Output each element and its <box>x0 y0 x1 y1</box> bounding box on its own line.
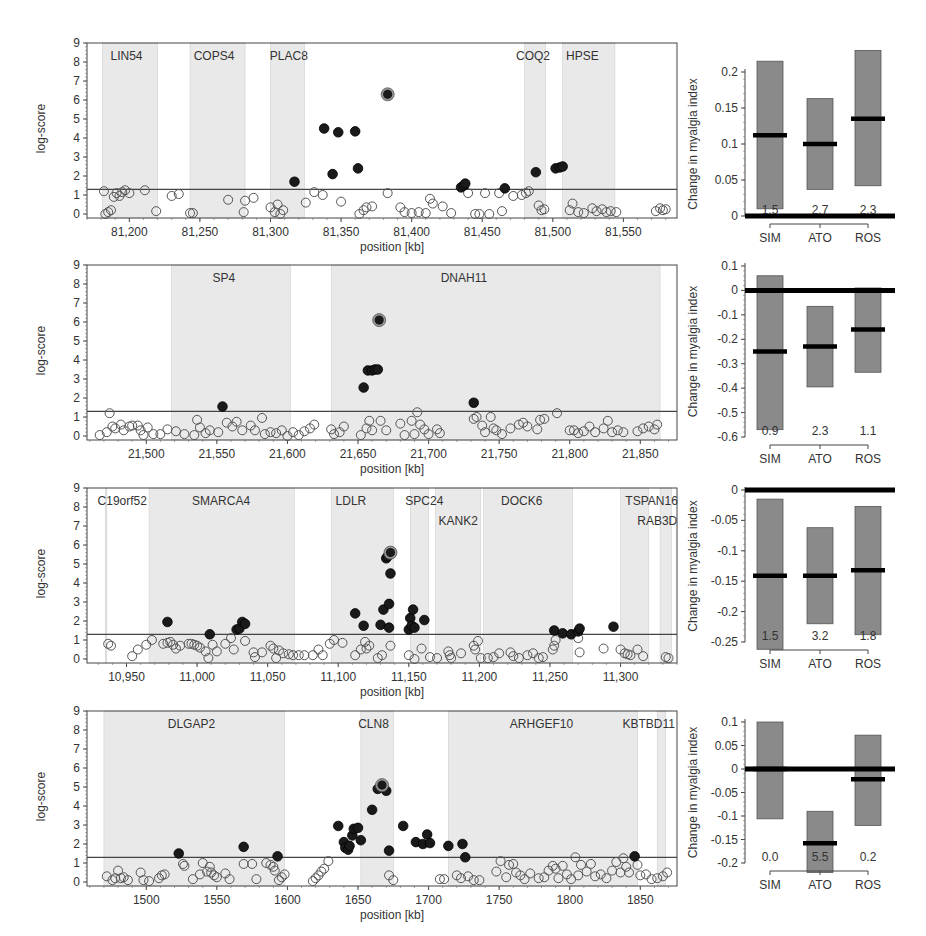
manhattan-plot-3: C19orf52SMARCA4LDLRSPC24KANK2DOCK6TSPAN1… <box>34 481 678 699</box>
significant-snp-point <box>408 605 418 615</box>
x-tick-label: 81,400 <box>393 225 430 239</box>
bar-y-tick-label: 0 <box>731 283 738 297</box>
y-tick-label: 6 <box>73 761 80 775</box>
x-axis-title: position [kb] <box>360 240 424 254</box>
snp-point <box>308 651 317 660</box>
snp-point <box>497 207 506 216</box>
snp-point <box>163 425 172 434</box>
significant-snp-point <box>319 124 329 134</box>
snp-point <box>509 191 518 200</box>
gene-label-arhgef10: ARHGEF10 <box>510 717 574 731</box>
x-tick-label: 11,250 <box>532 670 568 684</box>
x-tick-label: 11,200 <box>461 670 497 684</box>
snp-point <box>324 857 333 866</box>
x-tick-label: 81,500 <box>534 225 571 239</box>
y-tick-label: 9 <box>73 481 80 495</box>
gene-label-rab3d: RAB3D <box>637 514 677 528</box>
significant-snp-point <box>353 164 363 174</box>
significant-snp-point <box>458 839 468 849</box>
bar-y-tick-label: -0.1 <box>717 544 738 558</box>
significant-snp-point <box>384 846 394 856</box>
snp-point <box>641 870 650 879</box>
y-axis-title: log-score <box>34 104 48 154</box>
y-tick-label: 0 <box>73 207 80 221</box>
gene-band-spc24 <box>410 488 428 663</box>
snp-point <box>383 189 392 198</box>
category-label-ros: ROS <box>855 657 881 671</box>
x-tick-label: 81,250 <box>182 225 219 239</box>
gene-band-dlgap2 <box>104 711 285 886</box>
bar-y-tick-label: 0.05 <box>715 739 739 753</box>
snp-point <box>481 189 490 198</box>
significant-snp-point <box>218 402 228 412</box>
significant-snp-point <box>359 621 369 631</box>
bar-y-tick-label: -0.5 <box>717 406 738 420</box>
snp-point <box>438 202 447 211</box>
category-label-sim: SIM <box>759 452 780 466</box>
y-tick-label: 9 <box>73 258 80 272</box>
bar-y-tick-label: -0.15 <box>711 574 739 588</box>
significant-snp-point <box>500 184 510 194</box>
lead-snp-point <box>383 90 392 99</box>
bar-y-tick-label: -0.1 <box>717 308 738 322</box>
significant-snp-point <box>345 841 355 851</box>
significant-snp-point <box>333 128 343 138</box>
gene-band-cln8 <box>361 711 393 886</box>
gene-label-tspan16: TSPAN16 <box>625 494 678 508</box>
y-tick-label: 2 <box>73 837 80 851</box>
y-tick-label: 4 <box>73 799 80 813</box>
gene-label-hpse: HPSE <box>566 49 599 63</box>
bar-y-axis-title: Change in myalgia index <box>686 286 700 417</box>
bar-y-tick-label: 0 <box>731 483 738 497</box>
x-tick-label: 10,950 <box>108 670 145 684</box>
bar-y-tick-label: 0.15 <box>715 101 739 115</box>
significant-snp-point <box>359 383 369 393</box>
gene-band-sp4 <box>172 265 291 440</box>
y-tick-label: 9 <box>73 704 80 718</box>
gene-label-cln8: CLN8 <box>358 717 389 731</box>
category-label-ato: ATO <box>808 878 832 892</box>
gene-label-smarca4: SMARCA4 <box>192 494 250 508</box>
significant-snp-point <box>460 853 470 863</box>
gene-band-ldlr <box>331 488 393 663</box>
significant-snp-point <box>350 127 360 137</box>
significant-snp-point <box>350 609 360 619</box>
snp-point <box>575 648 584 657</box>
gene-label-coq2: COQ2 <box>516 49 550 63</box>
gene-label-spc24: SPC24 <box>405 494 443 508</box>
category-label-sim: SIM <box>759 657 780 671</box>
y-tick-label: 5 <box>73 334 80 348</box>
significant-snp-point <box>384 623 394 633</box>
y-tick-label: 6 <box>73 93 80 107</box>
category-label-ros: ROS <box>855 231 881 245</box>
gene-band-smarca4 <box>149 488 294 663</box>
y-tick-label: 3 <box>73 595 80 609</box>
snp-point <box>149 430 158 439</box>
gene-label-kank2: KANK2 <box>439 514 479 528</box>
x-axis-title: position [kb] <box>360 462 424 476</box>
lead-snp-point <box>375 316 384 325</box>
y-tick-label: 3 <box>73 818 80 832</box>
gene-band-plac8 <box>270 43 304 218</box>
x-tick-label: 81,300 <box>252 225 289 239</box>
snp-point <box>104 639 113 648</box>
x-tick-label: 81,200 <box>111 225 148 239</box>
snp-point <box>106 641 115 650</box>
x-tick-label: 21,550 <box>199 447 236 461</box>
y-tick-label: 9 <box>73 36 80 50</box>
significant-snp-point <box>444 841 454 851</box>
bar-y-tick-label: -0.05 <box>711 513 739 527</box>
significant-snp-point <box>163 617 173 627</box>
significant-snp-point <box>356 835 366 845</box>
x-tick-label: 81,450 <box>464 225 501 239</box>
x-tick-label: 1550 <box>204 893 231 907</box>
y-tick-label: 2 <box>73 169 80 183</box>
y-axis-title: log-score <box>34 772 48 822</box>
gene-band-hpse <box>563 43 615 218</box>
category-label-sim: SIM <box>759 878 780 892</box>
significant-snp-point <box>353 823 363 833</box>
manhattan-plot-2: SP4DNAH11012345678921,50021,55021,60021,… <box>34 258 677 476</box>
bar-value-label: 1.5 <box>762 203 779 217</box>
bar-y-tick-label: -0.6 <box>717 430 738 444</box>
y-tick-label: 5 <box>73 780 80 794</box>
